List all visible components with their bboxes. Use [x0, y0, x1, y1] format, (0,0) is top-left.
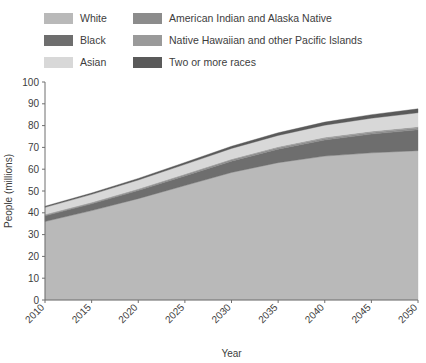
- legend-label-two-or-more-races: Two or more races: [169, 57, 256, 68]
- legend-label-black: Black: [80, 35, 106, 46]
- x-tick-label: 2050: [396, 301, 420, 325]
- y-tick-label: 50: [28, 186, 40, 197]
- x-tick-label: 2045: [349, 301, 373, 325]
- x-tick-label: 2010: [23, 301, 47, 325]
- legend-swatch-black: [44, 35, 73, 46]
- x-tick-label: 2020: [116, 301, 140, 325]
- x-tick-label: 2025: [163, 301, 187, 325]
- y-tick-label: 70: [28, 142, 40, 153]
- legend-item-native-hawaiian-pacific: Native Hawaiian and other Pacific Island…: [133, 30, 362, 50]
- x-axis-ticks: 201020152020202520302035204020452050: [23, 300, 420, 325]
- legend-label-native-hawaiian-pacific: Native Hawaiian and other Pacific Island…: [169, 35, 362, 46]
- legend-column-1: White Black Asian: [44, 8, 107, 74]
- legend-swatch-white: [44, 13, 73, 24]
- stacked-area-chart: 0102030405060708090100 20102015202020252…: [0, 72, 426, 363]
- legend-swatch-native-hawaiian-pacific: [133, 35, 162, 46]
- y-tick-label: 90: [28, 98, 40, 109]
- legend-swatch-asian: [44, 57, 73, 68]
- y-tick-label: 20: [28, 251, 40, 262]
- chart-legend: White Black Asian American Indian and Al…: [0, 0, 426, 72]
- legend-column-2: American Indian and Alaska Native Native…: [133, 8, 362, 74]
- x-tick-label: 2035: [256, 301, 280, 325]
- y-tick-label: 30: [28, 229, 40, 240]
- legend-item-american-indian-alaska-native: American Indian and Alaska Native: [133, 8, 362, 28]
- x-axis-title: Year: [221, 348, 242, 359]
- area-band-white: [45, 151, 418, 300]
- x-tick-label: 2015: [70, 301, 94, 325]
- legend-item-black: Black: [44, 30, 107, 50]
- area-series-group: [45, 109, 418, 300]
- y-axis-title: People (millions): [3, 154, 14, 228]
- y-tick-label: 100: [22, 77, 39, 88]
- y-tick-label: 60: [28, 164, 40, 175]
- legend-swatch-two-or-more-races: [133, 57, 162, 68]
- legend-swatch-american-indian-alaska-native: [133, 13, 162, 24]
- x-tick-label: 2030: [209, 301, 233, 325]
- legend-label-asian: Asian: [80, 57, 106, 68]
- legend-item-asian: Asian: [44, 52, 107, 72]
- x-tick-label: 2040: [303, 301, 327, 325]
- y-tick-label: 10: [28, 273, 40, 284]
- y-tick-label: 40: [28, 207, 40, 218]
- legend-label-american-indian-alaska-native: American Indian and Alaska Native: [169, 13, 332, 24]
- chart-svg: 0102030405060708090100 20102015202020252…: [0, 72, 426, 363]
- legend-label-white: White: [80, 13, 107, 24]
- y-tick-label: 80: [28, 120, 40, 131]
- legend-item-two-or-more-races: Two or more races: [133, 52, 362, 72]
- y-axis-ticks: 0102030405060708090100: [22, 77, 45, 306]
- legend-item-white: White: [44, 8, 107, 28]
